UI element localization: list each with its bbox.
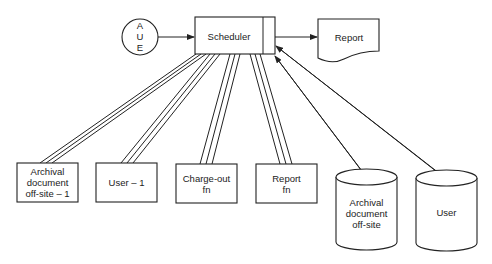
edge-scheduler-user-db bbox=[276, 46, 446, 179]
node-scheduler: Scheduler bbox=[195, 17, 275, 54]
node-user-1: User – 1 bbox=[96, 163, 157, 202]
charge-out-label-line-1: Charge-out bbox=[183, 173, 231, 184]
archival-1-label-line-3: off-site – 1 bbox=[25, 188, 69, 199]
node-report: Report bbox=[318, 19, 379, 62]
edge-scheduler-archival-offsite-1 bbox=[40, 54, 206, 163]
edge-scheduler-charge-out-fn bbox=[200, 54, 240, 164]
scheduler-diagram: A U E Scheduler Report Archival document… bbox=[0, 0, 492, 264]
charge-out-label-line-2: fn bbox=[203, 184, 211, 195]
user-db-label: User bbox=[436, 207, 456, 218]
node-charge-out-fn: Charge-out fn bbox=[176, 164, 237, 203]
archival-1-label-line-2: document bbox=[27, 177, 69, 188]
archival-1-label-line-1: Archival bbox=[31, 166, 65, 177]
report-label: Report bbox=[335, 32, 364, 43]
aue-label-u: U bbox=[137, 31, 144, 42]
report-fn-label-line-2: fn bbox=[283, 184, 291, 195]
aue-label-a: A bbox=[137, 20, 144, 31]
node-archival-offsite-1: Archival document off-site – 1 bbox=[17, 163, 78, 202]
edge-scheduler-archival-offsite-db bbox=[275, 56, 367, 178]
aue-label-e: E bbox=[137, 42, 143, 53]
report-fn-label-line-1: Report bbox=[272, 173, 301, 184]
scheduler-label: Scheduler bbox=[208, 31, 251, 42]
archival-db-label-line-2: document bbox=[346, 208, 388, 219]
node-archival-offsite-db: Archival document off-site bbox=[336, 169, 397, 250]
archival-db-label-line-1: Archival bbox=[350, 197, 384, 208]
archival-db-label-line-3: off-site bbox=[352, 219, 380, 230]
node-report-fn: Report fn bbox=[256, 164, 317, 203]
node-user-db: User bbox=[416, 170, 477, 251]
node-aue: A U E bbox=[122, 19, 158, 55]
user-1-label: User – 1 bbox=[109, 177, 145, 188]
